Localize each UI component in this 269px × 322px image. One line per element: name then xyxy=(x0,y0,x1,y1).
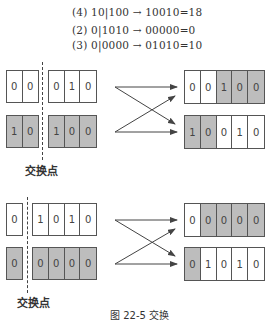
figure-caption: 图 22-5 交换 xyxy=(110,307,169,322)
